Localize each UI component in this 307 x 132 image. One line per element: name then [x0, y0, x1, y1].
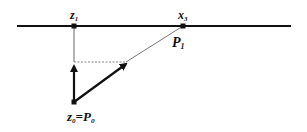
point-z1	[72, 24, 77, 29]
diagonal-vector-arrow	[74, 64, 126, 102]
label-x3: x3	[177, 8, 188, 23]
label-p1: P1	[172, 35, 185, 51]
point-z0	[72, 100, 77, 105]
point-x3	[181, 24, 186, 29]
diagram-canvas: z1 x3 P1 z0=P0	[0, 0, 307, 132]
label-z0-equals-p0: z0=P0	[66, 109, 95, 125]
label-z1: z1	[69, 8, 78, 23]
